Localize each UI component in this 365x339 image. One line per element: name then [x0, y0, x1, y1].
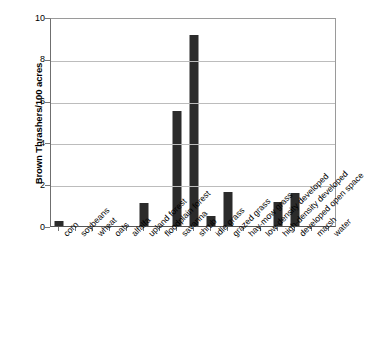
bar-slot — [101, 19, 118, 226]
bar — [55, 221, 64, 226]
bar-slot — [135, 19, 152, 226]
y-axis-tick-mark — [45, 185, 50, 186]
gridline — [51, 186, 335, 187]
gridline — [51, 61, 335, 62]
bar-slot — [152, 19, 169, 226]
y-axis-tick-label: 2 — [18, 181, 45, 190]
y-axis-tick-label: 0 — [18, 223, 45, 232]
x-axis-category-labels: cornsoybeanswheatoatsalfalfaupland fores… — [50, 232, 336, 339]
y-axis-tick-mark — [45, 227, 50, 228]
bar-slot — [51, 19, 68, 226]
bar-slot — [68, 19, 85, 226]
x-axis-tick-mark — [58, 227, 59, 231]
y-axis-tick-mark — [45, 18, 50, 19]
y-axis-tick-mark — [45, 60, 50, 61]
y-axis-tick-label: 4 — [18, 139, 45, 148]
y-axis-tick-mark — [45, 143, 50, 144]
bar-slot — [253, 19, 270, 226]
gridline — [51, 103, 335, 104]
y-axis-tick-labels: 0246810 — [18, 18, 45, 227]
bar-slot — [169, 19, 186, 226]
bar-slot — [118, 19, 135, 226]
y-axis-tick-label: 8 — [18, 55, 45, 64]
bar-slot — [236, 19, 253, 226]
y-axis-tick-label: 10 — [18, 14, 45, 23]
y-axis-tick-mark — [45, 102, 50, 103]
bar-slot — [85, 19, 102, 226]
bar-slot — [219, 19, 236, 226]
y-axis-tick-label: 6 — [18, 97, 45, 106]
gridline — [51, 144, 335, 145]
